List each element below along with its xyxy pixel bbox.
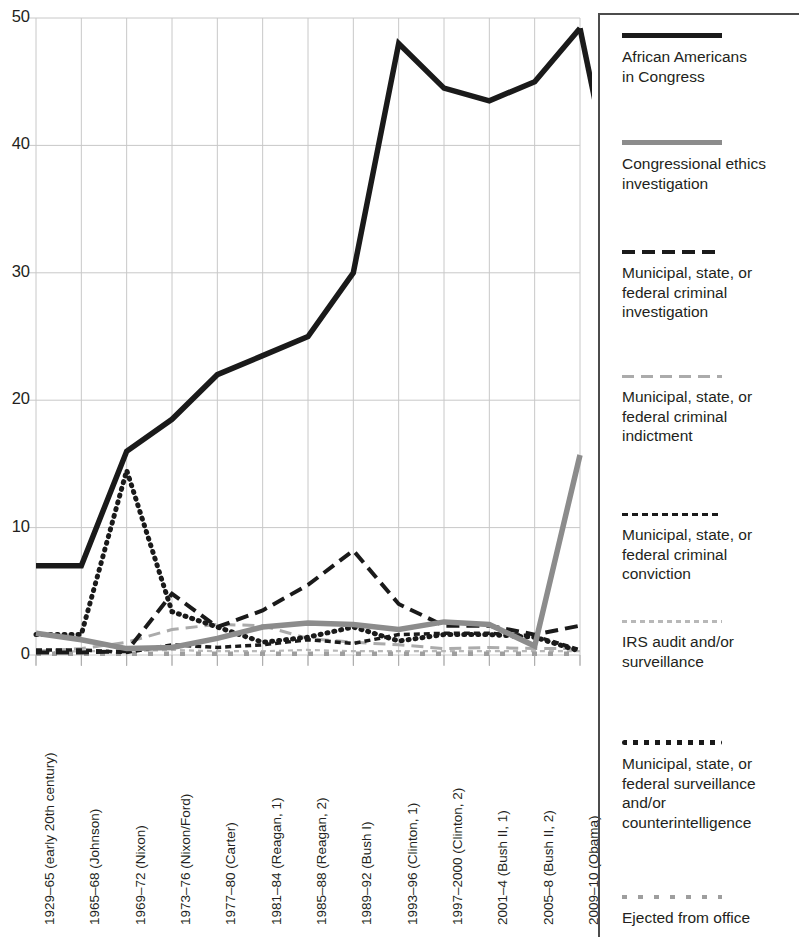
legend-item-7[interactable]: Ejected from office — [622, 895, 794, 928]
legend-swatch-icon — [622, 140, 722, 145]
legend-item-4[interactable]: Municipal, state, or federal criminal co… — [622, 513, 794, 584]
legend-item-3[interactable]: Municipal, state, or federal criminal in… — [622, 375, 794, 446]
plot-canvas — [0, 0, 592, 937]
legend-label: IRS audit and/or surveillance — [622, 632, 794, 671]
line-chart: 50403020100 1929–65 (early 20th century)… — [0, 0, 592, 937]
legend-swatch-icon — [622, 740, 722, 745]
x-axis-tick-label: 1965–68 (Johnson) — [87, 809, 102, 925]
legend-swatch-icon — [622, 250, 722, 254]
x-axis-tick-label: 1973–76 (Nixon/Ford) — [178, 794, 193, 925]
x-axis-tick-label: 1997–2000 (Clinton, 2) — [450, 788, 465, 925]
legend-label: Municipal, state, or federal criminal in… — [622, 263, 794, 322]
x-axis-tick-label: 1993–96 (Clinton, 1) — [405, 803, 420, 925]
x-axis-tick-label: 1977–80 (Carter) — [223, 822, 238, 925]
y-axis-tick-label: 20 — [0, 389, 30, 408]
y-axis-tick-label: 30 — [0, 262, 30, 281]
legend-item-5[interactable]: IRS audit and/or surveillance — [622, 620, 794, 671]
chart-page: 50403020100 1929–65 (early 20th century)… — [0, 0, 799, 937]
x-axis-tick-label: 1989–92 (Bush I) — [359, 821, 374, 925]
legend-label: Ejected from office — [622, 908, 794, 928]
legend-swatch-icon — [622, 375, 722, 378]
x-axis-tick-label: 2005–8 (Bush II, 2) — [541, 810, 556, 925]
legend-label: Municipal, state, or federal criminal in… — [622, 387, 794, 446]
axis-ticks — [36, 655, 580, 666]
legend-label: Municipal, state, or federal surveillanc… — [622, 754, 794, 832]
legend-label: Municipal, state, or federal criminal co… — [622, 525, 794, 584]
x-axis-tick-label: 1985–88 (Reagan, 2) — [314, 797, 329, 925]
y-axis-tick-label: 40 — [0, 134, 30, 153]
legend-item-1[interactable]: Congressional ethics investigation — [622, 140, 794, 193]
x-axis-tick-label: 1929–65 (early 20th century) — [42, 752, 57, 925]
legend-swatch-icon — [622, 33, 722, 38]
y-axis-tick-label: 50 — [0, 7, 30, 26]
chart-legend: African Americans in CongressCongression… — [598, 13, 799, 937]
y-axis-tick-label: 0 — [0, 644, 30, 663]
legend-label: African Americans in Congress — [622, 47, 794, 86]
legend-swatch-icon — [622, 895, 722, 899]
grid-lines — [28, 18, 580, 665]
legend-item-2[interactable]: Municipal, state, or federal criminal in… — [622, 250, 794, 322]
y-axis-tick-label: 10 — [0, 517, 30, 536]
legend-item-6[interactable]: Municipal, state, or federal surveillanc… — [622, 740, 794, 832]
x-axis-tick-label: 1969–72 (Nixon) — [133, 825, 148, 925]
legend-swatch-icon — [622, 620, 722, 623]
series-line-0-tail — [580, 28, 592, 120]
legend-label: Congressional ethics investigation — [622, 154, 794, 193]
legend-item-0[interactable]: African Americans in Congress — [622, 33, 794, 86]
x-axis-tick-label: 2001–4 (Bush II, 1) — [495, 810, 510, 925]
legend-swatch-icon — [622, 513, 722, 516]
x-axis-tick-label: 1981–84 (Reagan, 1) — [269, 797, 284, 925]
